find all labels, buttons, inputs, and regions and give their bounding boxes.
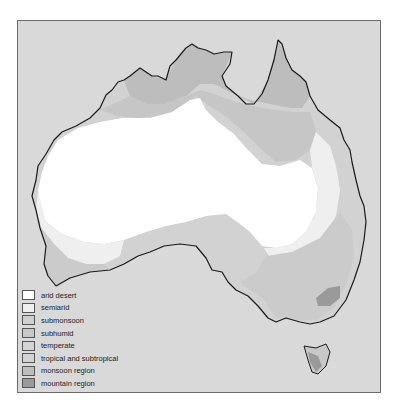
map-legend: arid desert semiarid submonsoon subhumid… (22, 289, 118, 390)
legend-item-monsoon-region: monsoon region (22, 365, 118, 378)
swatch-submonsoon (22, 315, 35, 325)
legend-label: temperate (41, 341, 75, 350)
legend-item-arid-desert: arid desert (22, 289, 118, 302)
legend-label: submonsoon (41, 316, 84, 325)
swatch-semiarid (22, 303, 35, 313)
swatch-temperate (22, 341, 35, 351)
swatch-tropical-subtropical (22, 353, 35, 363)
swatch-mountain-region (22, 378, 35, 388)
swatch-monsoon-region (22, 366, 35, 376)
legend-label: arid desert (41, 291, 76, 300)
legend-label: monsoon region (41, 366, 95, 375)
legend-item-tropical-subtropical: tropical and subtropical (22, 352, 118, 365)
legend-item-submonsoon: submonsoon (22, 314, 118, 327)
swatch-arid-desert (22, 290, 35, 300)
legend-label: subhumid (41, 329, 74, 338)
legend-label: semiarid (41, 303, 69, 312)
legend-item-subhumid: subhumid (22, 327, 118, 340)
legend-item-temperate: temperate (22, 339, 118, 352)
legend-label: mountain region (41, 379, 95, 388)
legend-item-semiarid: semiarid (22, 302, 118, 315)
swatch-subhumid (22, 328, 35, 338)
legend-item-mountain-region: mountain region (22, 377, 118, 390)
legend-label: tropical and subtropical (41, 354, 118, 363)
